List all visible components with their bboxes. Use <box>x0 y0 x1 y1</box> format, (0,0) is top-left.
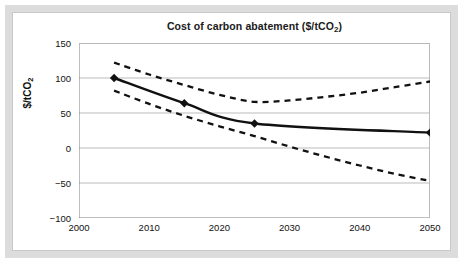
y-tick-label: 50 <box>31 108 71 119</box>
data-point-marker <box>180 99 188 107</box>
chart-canvas <box>79 43 430 218</box>
y-tick-label: 100 <box>31 73 71 84</box>
x-tick-label: 2020 <box>209 222 230 233</box>
x-tick-label: 2040 <box>349 222 370 233</box>
chart-title-main: Cost of carbon abatement ($/tCO <box>167 20 334 32</box>
y-tick-label: 0 <box>31 143 71 154</box>
data-series <box>114 91 430 181</box>
data-series-layer <box>110 63 430 181</box>
gridlines <box>79 43 430 183</box>
x-tick-label: 2030 <box>279 222 300 233</box>
y-tick-label: −50 <box>31 178 71 189</box>
x-tick-label: 2000 <box>68 222 89 233</box>
plot-area <box>79 43 430 218</box>
data-point-marker <box>426 128 430 136</box>
data-point-marker <box>250 119 258 127</box>
series-line-solid <box>114 78 430 133</box>
series-line-dashed <box>114 91 430 181</box>
x-tick-label: 2050 <box>419 222 440 233</box>
chart-figure: Cost of carbon abatement ($/tCO2) $/tCO2… <box>0 0 463 263</box>
x-tick-label: 2010 <box>139 222 160 233</box>
y-tick-label: 150 <box>31 38 71 49</box>
chart-title-subscript: 2 <box>334 25 339 34</box>
chart-title: Cost of carbon abatement ($/tCO2) <box>79 20 430 32</box>
chart-title-tail: ) <box>339 20 343 32</box>
y-axis-tick-labels: 150100500−50−100 <box>31 43 71 218</box>
y-tick-label: −100 <box>31 213 71 224</box>
data-point-marker <box>110 74 118 82</box>
data-series <box>110 74 430 137</box>
